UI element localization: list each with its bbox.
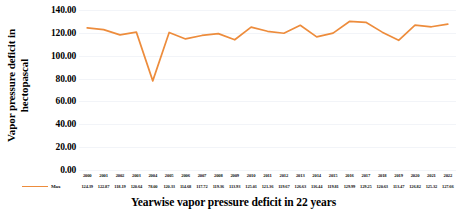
table-cell-year: 2022	[440, 170, 456, 181]
line-chart: Vapor pressure deficit in hectopascal 14…	[0, 0, 467, 217]
table-cell-value: 121.36	[259, 181, 275, 192]
table-cell-year: 2016	[341, 170, 357, 181]
table-cell-year: 2019	[390, 170, 406, 181]
y-axis-tick-label: 100.00	[30, 51, 76, 61]
table-row-values: 124.39122.87118.19120.6478.00120.33114.6…	[79, 181, 456, 192]
y-axis-tick-label: 60.00	[30, 96, 76, 106]
table-cell-year: 2005	[161, 170, 177, 181]
table-cell-value: 122.87	[95, 181, 111, 192]
table-cell-year: 2013	[292, 170, 308, 181]
table-cell-value: 129.25	[358, 181, 374, 192]
table-cell-value: 116.44	[308, 181, 324, 192]
table-cell-value: 127.66	[440, 181, 456, 192]
table-cell-value: 119.81	[325, 181, 341, 192]
table-cell-value: 125.01	[243, 181, 259, 192]
table-cell-value: 114.68	[177, 181, 193, 192]
table-cell-value: 126.82	[407, 181, 423, 192]
y-axis-title-line2: hectopascal	[17, 29, 30, 142]
table-cell-year: 2020	[407, 170, 423, 181]
y-axis-tick-label: 80.00	[30, 74, 76, 84]
x-axis-title: Yearwise vapor pressure deficit in 22 ye…	[0, 196, 467, 208]
table-cell-value: 126.63	[292, 181, 308, 192]
table-cell-value: 78.00	[145, 181, 161, 192]
table-cell-year: 2006	[177, 170, 193, 181]
table-cell-value: 120.64	[128, 181, 144, 192]
table-cell-year: 2008	[210, 170, 226, 181]
table-cell-year: 2003	[128, 170, 144, 181]
table-cell-value: 120.33	[161, 181, 177, 192]
table-cell-value: 119.67	[276, 181, 292, 192]
table-cell-value: 113.93	[227, 181, 243, 192]
table-cell-year: 2014	[308, 170, 324, 181]
y-axis-tick-label: 40.00	[30, 119, 76, 129]
y-axis-title-line1: Vapor pressure deficit in	[5, 29, 18, 142]
y-axis-tick-label: 20.00	[30, 142, 76, 152]
legend-label-max: Max	[51, 184, 60, 189]
table-cell-value: 124.39	[79, 181, 95, 192]
table-cell-value: 117.72	[194, 181, 210, 192]
table-cell-year: 2012	[276, 170, 292, 181]
table-cell-year: 2017	[358, 170, 374, 181]
table-cell-value: 125.32	[423, 181, 439, 192]
y-axis-tick-label: 140.00	[30, 5, 76, 15]
table-cell-year: 2021	[423, 170, 439, 181]
table-cell-value: 120.63	[374, 181, 390, 192]
legend-line-swatch-max	[22, 186, 48, 187]
series-line-max	[79, 10, 456, 170]
table-cell-year: 2001	[95, 170, 111, 181]
table-cell-value: 129.99	[341, 181, 357, 192]
plot-area	[79, 10, 456, 170]
table-cell-year: 2011	[259, 170, 275, 181]
table-cell-value: 113.47	[390, 181, 406, 192]
table-cell-year: 2018	[374, 170, 390, 181]
y-axis-title: Vapor pressure deficit in hectopascal	[0, 0, 34, 170]
table-cell-year: 2009	[227, 170, 243, 181]
table-cell-value: 119.36	[210, 181, 226, 192]
y-axis-tick-labels: 140.00120.00100.0080.0060.0040.0020.000.…	[30, 0, 76, 170]
y-axis-tick-label: 120.00	[30, 28, 76, 38]
table-cell-year: 2000	[79, 170, 95, 181]
table-cell-year: 2004	[145, 170, 161, 181]
legend[interactable]: Max	[22, 181, 79, 192]
table-cell-year: 2007	[194, 170, 210, 181]
table-cell-year: 2010	[243, 170, 259, 181]
table-cell-year: 2002	[112, 170, 128, 181]
table-cell-value: 118.19	[112, 181, 128, 192]
table-row-years: 2000200120022003200420052006200720082009…	[79, 170, 456, 181]
y-axis-tick-label: 0.00	[30, 165, 76, 175]
data-table: 2000200120022003200420052006200720082009…	[79, 170, 456, 192]
table-cell-year: 2015	[325, 170, 341, 181]
